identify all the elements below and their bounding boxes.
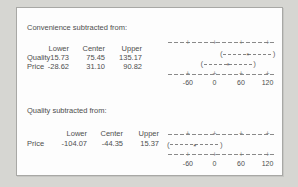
center-value: -44.35 (83, 139, 123, 148)
tick-label: 60 (237, 159, 245, 166)
column-header-upper: Upper (102, 44, 142, 53)
section-title: Convenience subtracted from: (27, 23, 127, 32)
column-header-upper: Upper (119, 129, 159, 138)
upper-value: 135.17 (102, 53, 142, 62)
center-value: 75.45 (65, 53, 105, 62)
tick-mark: + (239, 130, 243, 137)
column-header-center: Center (65, 44, 105, 53)
axis-line (168, 154, 275, 155)
interval-lower-paren: ( (167, 140, 170, 148)
table-row: Price -104.07 -44.35 15.37 (27, 139, 177, 148)
interval-upper-paren: ) (220, 140, 223, 148)
column-header-lower: Lower (29, 44, 69, 53)
upper-value: 90.82 (102, 62, 142, 71)
interval-center-marker: * (193, 142, 196, 150)
tick-label: 120 (262, 159, 274, 166)
row-label: Price (27, 139, 44, 148)
table-header-row: Lower Center Upper (27, 44, 177, 53)
table-row: Quality 15.73 75.45 135.17 (27, 53, 177, 62)
tick-mark: + (186, 130, 190, 137)
column-header-center: Center (83, 129, 123, 138)
column-header-lower: Lower (47, 129, 87, 138)
section-title: Quality subtracted from: (27, 106, 107, 115)
table-row: Price -28.62 31.10 90.82 (27, 62, 177, 71)
tick-label: -60 (183, 159, 193, 166)
lower-value: -104.07 (47, 139, 87, 148)
results-panel: Convenience subtracted from: Lower Cente… (16, 7, 283, 176)
tick-mark: + (265, 151, 269, 158)
tick-label: 0 (212, 159, 216, 166)
interval-plot-quality: ++++++++-60060120()* (168, 8, 275, 175)
lower-value: -28.62 (29, 62, 69, 71)
lower-value: 15.73 (29, 53, 69, 62)
center-value: 31.10 (65, 62, 105, 71)
table-header-row: Lower Center Upper (27, 129, 177, 138)
tick-mark: + (212, 151, 216, 158)
tick-mark: + (265, 130, 269, 137)
tick-mark: + (212, 130, 216, 137)
tick-mark: + (186, 151, 190, 158)
axis-line (168, 134, 275, 135)
upper-value: 15.37 (119, 139, 159, 148)
tick-mark: + (239, 151, 243, 158)
